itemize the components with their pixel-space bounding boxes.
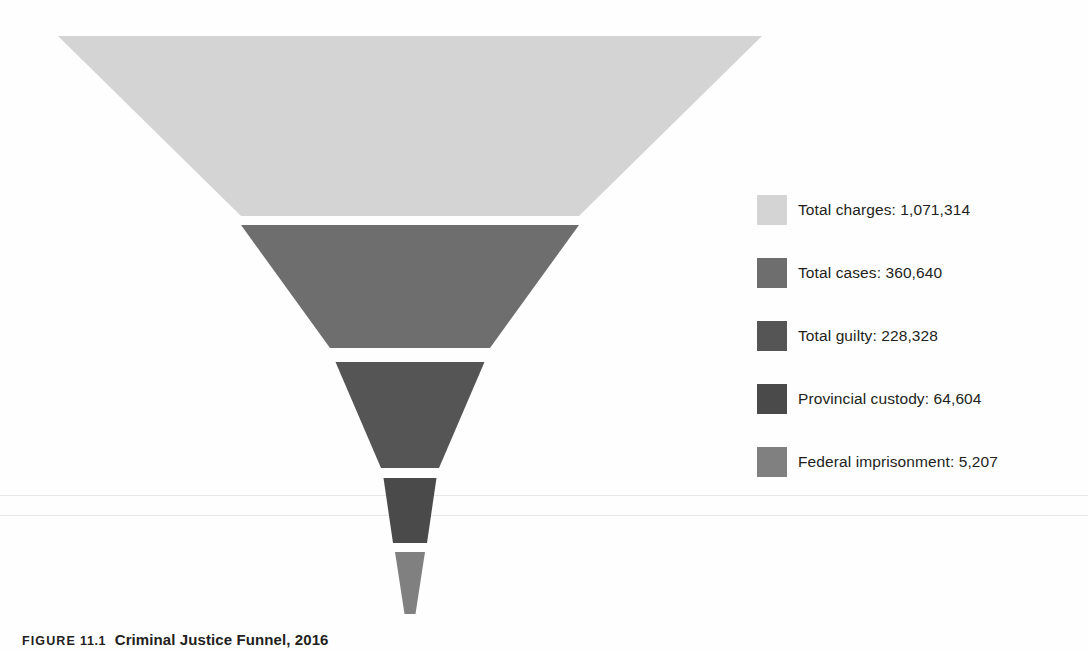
legend-swatch: [757, 321, 787, 351]
funnel-segment-4: Provincial custody: 64,604: [384, 478, 437, 543]
funnel-chart: Total charges: 1,071,314Total cases: 360…: [0, 0, 800, 651]
caption-figure-number: 11.1: [80, 634, 106, 648]
funnel-segments: Total charges: 1,071,314Total cases: 360…: [58, 36, 762, 614]
legend-item: Total cases: 360,640: [757, 258, 1077, 288]
caption-figure-word: FIGURE: [22, 634, 76, 648]
legend-item: Federal imprisonment: 5,207: [757, 447, 1077, 477]
figure-caption: FIGURE 11.1 Criminal Justice Funnel, 201…: [22, 631, 329, 648]
funnel-segment-1: Total charges: 1,071,314: [58, 36, 762, 216]
legend-item-label: Total guilty: 228,328: [798, 327, 938, 345]
chart-legend: Total charges: 1,071,314Total cases: 360…: [757, 195, 1077, 477]
legend-item: Provincial custody: 64,604: [757, 384, 1077, 414]
funnel-svg: Total charges: 1,071,314Total cases: 360…: [0, 0, 800, 651]
funnel-segment-2: Total cases: 360,640: [241, 225, 579, 348]
caption-figure-title: Criminal Justice Funnel, 2016: [115, 631, 329, 648]
figure-page: Total charges: 1,071,314Total cases: 360…: [0, 0, 1088, 651]
legend-item-label: Total cases: 360,640: [798, 264, 942, 282]
legend-item: Total charges: 1,071,314: [757, 195, 1077, 225]
legend-item-label: Federal imprisonment: 5,207: [798, 453, 998, 471]
funnel-segment-3: Total guilty: 228,328: [336, 362, 485, 468]
legend-swatch: [757, 258, 787, 288]
legend-item-label: Provincial custody: 64,604: [798, 390, 982, 408]
legend-item: Total guilty: 228,328: [757, 321, 1077, 351]
legend-swatch: [757, 384, 787, 414]
legend-swatch: [757, 195, 787, 225]
legend-swatch: [757, 447, 787, 477]
funnel-segment-5: Federal imprisonment: 5,207: [395, 552, 425, 614]
legend-item-label: Total charges: 1,071,314: [798, 201, 970, 219]
